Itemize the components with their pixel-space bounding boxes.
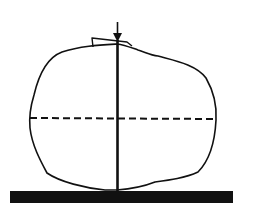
base-bar xyxy=(10,191,233,203)
diagram-canvas xyxy=(0,0,253,217)
diagram-svg xyxy=(0,0,253,217)
dashed-midline xyxy=(30,118,217,119)
down-arrow-icon xyxy=(113,22,122,42)
body-outline xyxy=(30,44,217,190)
